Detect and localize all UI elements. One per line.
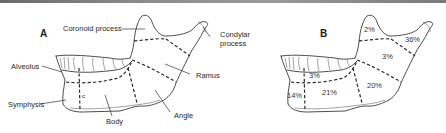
label-angle: Angle (174, 111, 193, 120)
label-body: Body (106, 117, 123, 126)
label-coronoid-process: Coronoid process (63, 24, 122, 33)
pct-condylar: 36% (405, 35, 420, 44)
label-condylar-process-line2: process (220, 39, 247, 48)
label-canine-mark: c (82, 93, 85, 99)
label-ramus: Ramus (196, 71, 220, 80)
label-symphysis: Symphysis (8, 100, 45, 109)
mandible-diagram: A (0, 0, 446, 133)
pct-coronoid: 2% (364, 25, 375, 34)
panel-a: A (8, 15, 251, 126)
leader-lines-a (40, 27, 210, 116)
label-condylar-process-line1: Condylar (220, 30, 251, 39)
pct-ramus: 3% (382, 52, 393, 61)
pct-angle: 20% (367, 81, 382, 90)
pct-symphysis: 14% (287, 91, 302, 100)
label-alveolus: Alveolus (11, 62, 40, 71)
pct-body: 21% (322, 88, 337, 97)
panel-b: B 2% 36% 3% 3% 20% 21% 14% (281, 15, 433, 112)
panel-a-letter: A (40, 28, 47, 39)
pct-alveolus: 3% (309, 71, 320, 80)
panel-b-letter: B (320, 28, 327, 39)
mandible-outline-b (281, 15, 433, 112)
region-boundaries-a (66, 39, 190, 111)
